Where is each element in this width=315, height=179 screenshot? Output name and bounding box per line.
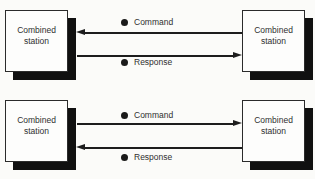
bullet-icon <box>121 19 128 26</box>
station-box-top-right: Combined station <box>242 10 305 72</box>
command-arrow-line-bottom <box>77 123 234 124</box>
response-arrow-line-bottom <box>84 147 242 148</box>
arrowhead-left-icon <box>76 29 85 35</box>
station-label: Combined station <box>250 115 298 137</box>
station-label: Combined station <box>13 115 61 137</box>
arrowhead-left-icon <box>76 144 85 150</box>
command-arrow-line-top <box>84 32 242 33</box>
station-label: Combined station <box>250 25 298 47</box>
bullet-icon <box>121 59 128 66</box>
combined-stations-diagram: Combined station Combined station Comman… <box>0 0 315 179</box>
command-label-top: Command <box>121 17 173 28</box>
command-label-bottom: Command <box>121 110 173 121</box>
arrowhead-right-icon <box>233 120 242 126</box>
station-box-bottom-left: Combined station <box>5 100 68 162</box>
arrow-label: Command <box>134 17 173 28</box>
bullet-icon <box>121 112 128 119</box>
station-box-top-left: Combined station <box>5 10 68 72</box>
bullet-icon <box>121 154 128 161</box>
response-label-bottom: Response <box>121 152 172 163</box>
arrowhead-right-icon <box>233 52 242 58</box>
arrow-label: Response <box>134 57 172 68</box>
station-box-bottom-right: Combined station <box>242 100 305 162</box>
arrow-label: Command <box>134 110 173 121</box>
arrow-label: Response <box>134 152 172 163</box>
station-label: Combined station <box>13 25 61 47</box>
response-label-top: Response <box>121 57 172 68</box>
